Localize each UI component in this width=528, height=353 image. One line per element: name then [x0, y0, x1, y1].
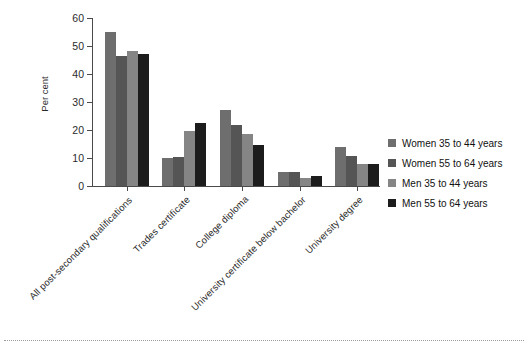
bar-group	[162, 18, 206, 186]
bar[interactable]	[300, 178, 311, 186]
bar[interactable]	[195, 123, 206, 186]
legend-label: Men 55 to 64 years	[402, 198, 488, 209]
legend-item[interactable]: Men 35 to 44 years	[388, 173, 528, 193]
y-axis-title: Per cent	[39, 76, 50, 111]
y-axis-tick-label: 40	[72, 68, 84, 80]
bar[interactable]	[357, 164, 368, 186]
y-axis-tick-label: 60	[72, 12, 84, 24]
y-axis-tick-mark	[87, 18, 92, 19]
legend-label: Women 35 to 44 years	[402, 138, 502, 149]
bar[interactable]	[127, 51, 138, 186]
y-axis-tick-mark	[87, 186, 92, 187]
x-axis-tick-mark	[184, 186, 185, 191]
y-axis-tick-mark	[87, 130, 92, 131]
bar[interactable]	[335, 147, 346, 186]
bar-group	[278, 18, 322, 186]
legend-item[interactable]: Men 55 to 64 years	[388, 193, 528, 213]
bar-group-bars	[105, 18, 149, 186]
bar-group-bars	[162, 18, 206, 186]
legend-label: Men 35 to 44 years	[402, 178, 488, 189]
x-axis-line	[92, 186, 380, 187]
x-axis-tick-mark	[300, 186, 301, 191]
bar[interactable]	[220, 110, 231, 186]
bar[interactable]	[368, 164, 379, 186]
bar[interactable]	[253, 145, 264, 186]
bar[interactable]	[138, 54, 149, 186]
bar-group-bars	[220, 18, 264, 186]
chart-canvas: Per cent 0102030405060 All post-secondar…	[0, 0, 528, 353]
y-axis-tick-mark	[87, 74, 92, 75]
y-axis-tick-label: 10	[72, 152, 84, 164]
y-axis-tick-mark	[87, 158, 92, 159]
legend-swatch-icon	[388, 179, 396, 187]
bar[interactable]	[289, 172, 300, 186]
bar[interactable]	[116, 56, 127, 186]
x-axis-tick-mark	[242, 186, 243, 191]
footer-divider	[4, 340, 524, 341]
bar[interactable]	[346, 156, 357, 186]
x-axis-label: All post-secondary qualifications	[27, 194, 134, 301]
x-axis-tick-mark	[127, 186, 128, 191]
legend-swatch-icon	[388, 159, 396, 167]
bar[interactable]	[162, 158, 173, 186]
bar-group	[220, 18, 264, 186]
x-axis-label: University degree	[303, 194, 365, 256]
bar[interactable]	[242, 134, 253, 186]
y-axis-tick-label: 20	[72, 124, 84, 136]
x-axis-label: College diploma	[193, 194, 251, 252]
legend-item[interactable]: Women 55 to 64 years	[388, 153, 528, 173]
y-axis-tick-mark	[87, 46, 92, 47]
x-axis-label: University certificate below bachelor	[189, 194, 308, 313]
legend: Women 35 to 44 yearsWomen 55 to 64 years…	[388, 133, 528, 213]
y-axis-tick-mark	[87, 102, 92, 103]
y-axis-tick-label: 50	[72, 40, 84, 52]
legend-swatch-icon	[388, 139, 396, 147]
bar-group-bars	[335, 18, 379, 186]
bar[interactable]	[105, 32, 116, 186]
bar[interactable]	[184, 131, 195, 186]
x-axis-tick-mark	[357, 186, 358, 191]
legend-item[interactable]: Women 35 to 44 years	[388, 133, 528, 153]
bar[interactable]	[173, 157, 184, 186]
x-axis-label: Trades certificate	[131, 194, 192, 255]
bar[interactable]	[231, 125, 242, 186]
y-axis-tick-label: 30	[72, 96, 84, 108]
bar[interactable]	[311, 176, 322, 186]
bar[interactable]	[278, 172, 289, 186]
bar-group	[105, 18, 149, 186]
legend-label: Women 55 to 64 years	[402, 158, 502, 169]
legend-swatch-icon	[388, 199, 396, 207]
plot-area: 0102030405060	[92, 18, 380, 186]
y-axis-tick-label: 0	[78, 180, 84, 192]
y-axis-line	[92, 18, 93, 186]
bar-group-bars	[278, 18, 322, 186]
bar-group	[335, 18, 379, 186]
